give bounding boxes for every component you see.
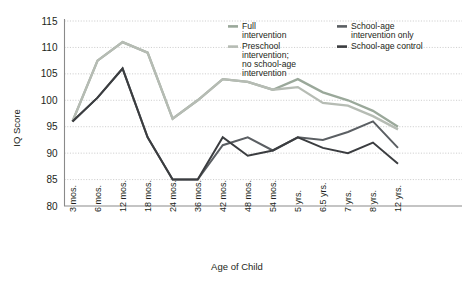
x-tick-label: 6 mos. — [93, 185, 103, 212]
x-tick-label: 48 mos. — [243, 180, 253, 212]
x-axis-tick-labels: 3 mos.6 mos.12 mos.18 mos.24 mos.36 mos.… — [68, 180, 404, 212]
x-tick-label: 6.5 yrs. — [318, 182, 328, 212]
y-axis-title: IQ Score — [11, 109, 22, 147]
legend-label: intervention — [242, 30, 287, 40]
series-line-preschool-intervention-no-school-age-intervention — [73, 42, 399, 129]
legend-label: intervention only — [351, 30, 414, 40]
x-tick-label: 8 yrs. — [368, 190, 378, 212]
y-tick-label: 85 — [46, 174, 58, 185]
y-tick-label: 95 — [46, 121, 58, 132]
x-axis-title: Age of Child — [211, 261, 263, 272]
x-tick-label: 5 yrs. — [293, 190, 303, 212]
chart-legend: FullinterventionPreschoolintervention;no… — [228, 21, 423, 78]
series-line-school-age-intervention-only — [73, 69, 399, 180]
series-line-full-intervention — [73, 42, 399, 127]
x-tick-label: 24 mos. — [168, 180, 178, 212]
x-tick-label: 42 mos. — [218, 180, 228, 212]
y-tick-label: 115 — [42, 16, 58, 27]
data-series-lines — [73, 42, 399, 179]
y-tick-label: 105 — [41, 68, 58, 79]
chart-container: 80859095100105110115 3 mos.6 mos.12 mos.… — [0, 0, 474, 282]
x-tick-label: 12 mos. — [118, 180, 128, 212]
x-tick-label: 12 yrs. — [393, 185, 403, 212]
x-tick-label: 7 yrs. — [343, 190, 353, 212]
y-tick-label: 80 — [46, 201, 58, 212]
y-tick-label: 90 — [46, 148, 58, 159]
x-tick-label: 18 mos. — [143, 180, 153, 212]
legend-label: School-age control — [351, 41, 423, 51]
x-tick-label: 36 mos. — [193, 180, 203, 212]
series-line-school-age-control — [73, 69, 399, 180]
y-tick-label: 100 — [41, 95, 58, 106]
x-tick-label: 54 mos. — [268, 180, 278, 212]
y-axis-tick-labels: 80859095100105110115 — [41, 16, 58, 212]
y-tick-label: 110 — [42, 42, 58, 53]
x-tick-label: 3 mos. — [68, 185, 78, 212]
legend-label: intervention — [242, 68, 287, 78]
iq-score-line-chart: 80859095100105110115 3 mos.6 mos.12 mos.… — [0, 0, 474, 282]
